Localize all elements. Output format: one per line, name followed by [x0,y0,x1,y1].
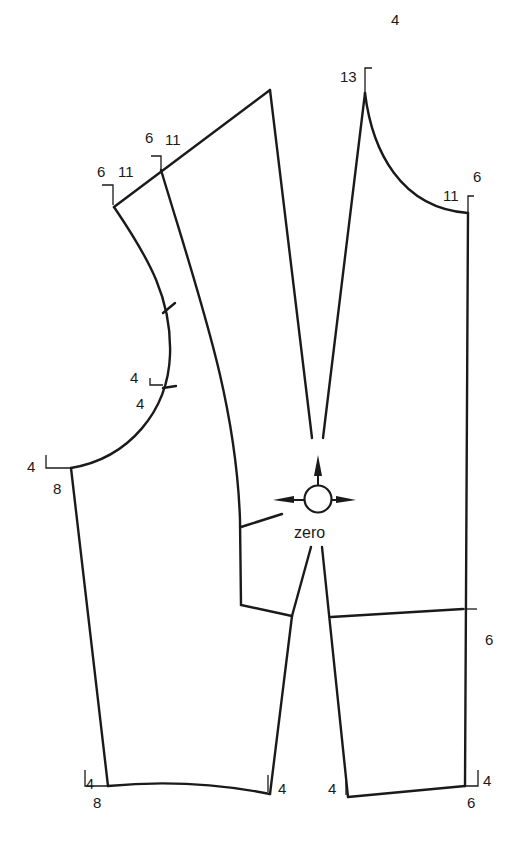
label-hem-left-a: 4 [86,775,94,792]
front-hem [108,783,270,794]
zero-circle [305,486,332,513]
label-right-shoulder-a: 6 [473,168,481,185]
front-center-lower [270,616,292,794]
label-armhole-notch-a: 4 [130,369,138,386]
label-hem-mid-left: 4 [278,780,286,797]
front-side-seam [71,468,108,786]
front-piece [71,90,312,794]
corner-ticks [46,68,478,795]
label-mid-shoulder-b: 11 [165,131,181,148]
front-panel-seam [161,170,292,616]
label-armhole-notch-b: 4 [136,395,144,412]
label-back-neck-top: 4 [391,11,399,28]
arrow-right-icon [336,496,356,503]
zero-label: zero [294,524,325,541]
front-panel-notch [241,514,282,527]
label-left-shoulder-a: 6 [97,163,105,180]
back-hem [348,786,465,797]
label-back-neck-side: 13 [340,68,357,85]
front-shoulder [114,90,270,207]
front-armhole-curve [71,207,170,468]
label-right-shoulder-b: 11 [443,187,459,204]
label-waist-right: 6 [485,631,493,648]
label-hem-left-b: 8 [93,794,101,811]
label-underarm-b: 8 [53,480,61,497]
label-hem-right-b: 6 [467,794,475,811]
back-center-seam [465,213,468,786]
back-dart-lower [322,547,348,797]
front-dart-lower [292,547,311,616]
pattern-diagram: zero 6 11 6 11 4 13 6 11 4 4 4 8 6 4 8 4… [0,0,527,850]
back-dart-upper [323,93,365,438]
arrow-up-icon [314,455,322,476]
zero-marker: zero [273,455,356,541]
label-hem-mid-right: 4 [328,780,336,797]
back-waist-line [331,609,463,617]
front-dart-right [270,90,312,438]
label-left-shoulder-b: 11 [118,163,134,180]
label-underarm-a: 4 [27,458,35,475]
label-hem-right-a: 4 [483,772,491,789]
arrow-left-icon [273,496,294,503]
label-mid-shoulder-a: 6 [145,129,153,146]
